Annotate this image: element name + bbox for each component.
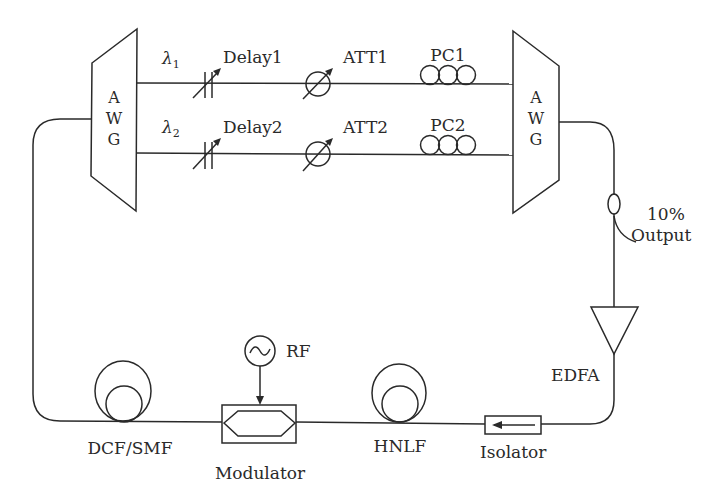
awg-right-letter-a: A — [529, 88, 542, 107]
sine-wave-icon — [250, 347, 270, 355]
modulator-to-awg-left-fiber — [33, 119, 222, 422]
coupler-ratio-label: 10% — [647, 204, 685, 224]
awg-right-letter-w: W — [528, 109, 545, 128]
pc2-polarization-controller-icon — [421, 136, 476, 155]
edfa-amplifier-icon — [591, 307, 638, 354]
awg-left-letter-a: A — [107, 88, 120, 107]
awg-left: A W G — [91, 29, 137, 211]
awg-right: A W G — [513, 31, 559, 213]
awg-left-letter-w: W — [106, 109, 123, 128]
rf-label: RF — [286, 341, 311, 361]
mach-zehnder-icon — [224, 411, 295, 436]
att1-label: ATT1 — [342, 47, 388, 67]
branch-1-fiber — [137, 83, 513, 84]
awg-right-output-fiber — [559, 122, 614, 195]
awg-right-letter-g: G — [530, 130, 543, 149]
branch-2-fiber — [136, 153, 513, 155]
dcf-smf-fiber-coil-icon — [95, 361, 151, 422]
lambda2-label: λ2 — [161, 117, 180, 140]
rf-arrow-head — [256, 396, 264, 405]
edfa-label: EDFA — [551, 365, 600, 385]
isolator-to-modulator-fiber — [296, 422, 485, 424]
att2-label: ATT2 — [342, 117, 388, 137]
delay2-label: Delay2 — [223, 117, 283, 137]
pc1-label: PC1 — [430, 45, 465, 65]
dcf-smf-label: DCF/SMF — [87, 438, 172, 458]
isolator-label: Isolator — [480, 442, 547, 462]
coupler-icon — [608, 194, 620, 214]
hnlf-label: HNLF — [374, 436, 427, 456]
pc1-polarization-controller-icon — [421, 66, 476, 85]
lambda1-label: λ1 — [161, 48, 180, 71]
awg-left-letter-g: G — [108, 130, 121, 149]
delay1-label: Delay1 — [223, 47, 283, 67]
modulator-label: Modulator — [215, 463, 306, 483]
diagram-canvas: A W G A W G λ1 λ2 Delay1 Delay2 ATT1 — [0, 0, 717, 504]
isolator-arrow-head — [492, 421, 502, 429]
coupler-output-label: Output — [631, 225, 692, 245]
pc2-label: PC2 — [430, 115, 465, 135]
hnlf-fiber-coil-icon — [372, 364, 426, 422]
